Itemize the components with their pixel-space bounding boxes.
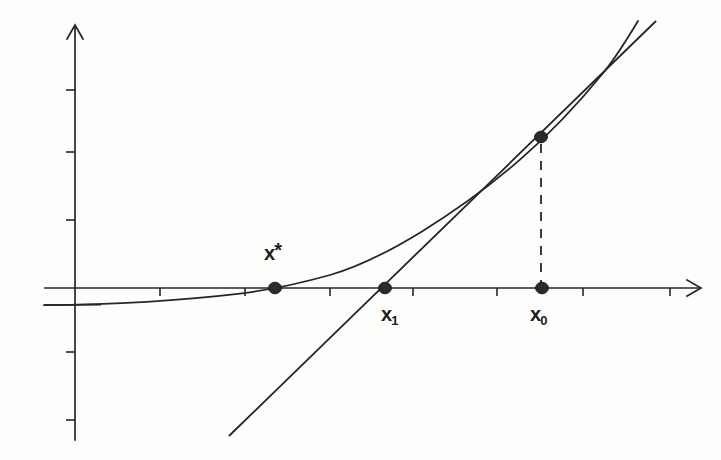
marker-x-one	[379, 282, 392, 294]
marker-f-at-x-zero	[535, 131, 548, 143]
label-x-star: x*	[264, 239, 282, 265]
function-curve	[44, 21, 638, 305]
figure-canvas: .axis { stroke:#262626; stroke-width:1.7…	[0, 0, 721, 460]
marker-x-star	[269, 282, 282, 294]
label-x-zero-subscript: 0	[540, 313, 547, 328]
label-x-one-subscript: 1	[391, 313, 398, 328]
marker-dots	[269, 131, 549, 294]
label-x-one: x1	[381, 303, 399, 328]
y-axis-ticks	[66, 90, 75, 420]
newton-method-figure: .axis { stroke:#262626; stroke-width:1.7…	[0, 0, 721, 460]
label-x-zero: x0	[530, 303, 548, 328]
marker-x-zero	[536, 282, 549, 294]
tangent-line	[230, 22, 656, 436]
axes-group	[45, 25, 701, 440]
label-x-star-superscript: *	[274, 239, 282, 261]
